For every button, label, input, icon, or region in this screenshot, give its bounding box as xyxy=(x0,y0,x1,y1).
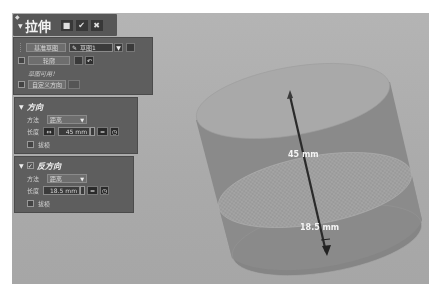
method-select[interactable]: 距离 ▼ xyxy=(47,115,87,124)
lock-button[interactable]: ■ xyxy=(61,20,73,31)
draft-label: 拔模 xyxy=(38,199,50,208)
profile-button[interactable]: 轮廓 xyxy=(28,56,70,65)
drag-handle[interactable] xyxy=(20,43,24,52)
measure-icon[interactable]: ═ xyxy=(87,186,98,195)
reference-sketch-button[interactable]: 基准草图 xyxy=(26,43,66,52)
length-spinner[interactable] xyxy=(90,127,95,136)
length-drag-handle-icon[interactable]: ⇔ xyxy=(43,127,55,136)
custom-direction-button[interactable]: 自定义方向 xyxy=(28,80,66,89)
reverse-method-select[interactable]: 距离 ▼ xyxy=(47,174,87,183)
custom-direction-handle[interactable] xyxy=(18,81,25,88)
reverse-length-input[interactable]: 18.5 mm xyxy=(43,186,80,195)
reverse-profile-icon[interactable]: ↶ xyxy=(85,56,94,65)
formula-icon[interactable]: ◷ xyxy=(110,127,119,136)
draft-label: 拔模 xyxy=(38,140,50,149)
method-label: 方法 xyxy=(27,115,47,124)
sketch-extra-button[interactable] xyxy=(126,43,135,52)
dialog-title: 拉伸 xyxy=(25,16,51,35)
reverse-length-spinner[interactable] xyxy=(80,186,85,195)
collapse-triangle-icon[interactable]: ▼ xyxy=(19,103,24,110)
lock-icon: ■ xyxy=(63,21,71,30)
sketch-status-text: 草图可用！ xyxy=(28,69,58,78)
draft-checkbox[interactable] xyxy=(27,141,34,148)
close-icon: ✖ xyxy=(93,21,100,30)
sketch-dropdown-button[interactable]: ▼ xyxy=(114,43,123,52)
pencil-icon: ✎ xyxy=(72,44,77,51)
profile-select-button[interactable] xyxy=(74,56,83,65)
formula-icon[interactable]: ◷ xyxy=(100,186,109,195)
dimension-label-forward[interactable]: 45 mm xyxy=(288,150,319,159)
method-label: 方法 xyxy=(27,174,47,183)
length-input[interactable]: 45 mm xyxy=(58,127,90,136)
reverse-draft-checkbox[interactable] xyxy=(27,200,34,207)
chevron-down-icon: ▼ xyxy=(80,117,84,123)
ok-button[interactable]: ✔ xyxy=(76,20,88,31)
profile-row-handle[interactable] xyxy=(18,57,25,64)
reverse-direction-panel: ▼ ✓ 反方向 方法 距离 ▼ 长度 18.5 mm ═ ◷ 拔模 xyxy=(14,156,134,213)
sketch-selector[interactable]: ✎ 草图1 xyxy=(69,43,113,52)
length-label: 长度 xyxy=(27,127,43,136)
reverse-section-title: 反方向 xyxy=(37,160,61,171)
collapse-triangle-icon[interactable]: ▼ xyxy=(19,162,24,169)
length-label: 长度 xyxy=(27,186,43,195)
chevron-down-icon: ▼ xyxy=(80,176,84,182)
check-icon: ✔ xyxy=(78,21,85,30)
custom-direction-extra[interactable] xyxy=(68,80,80,89)
collapse-triangle-icon[interactable]: ▼ xyxy=(18,22,23,29)
dialog-titlebar: ◆ ▼ 拉伸 ■ ✔ ✖ xyxy=(13,14,117,36)
cancel-button[interactable]: ✖ xyxy=(91,20,103,31)
direction-section-title: 方向 xyxy=(27,101,43,112)
dimension-label-reverse[interactable]: 18.5 mm xyxy=(300,223,339,232)
direction-panel: ▼ 方向 方法 距离 ▼ 长度 ⇔ 45 mm ═ ◷ 拔模 xyxy=(14,97,138,154)
pin-icon[interactable]: ◆ xyxy=(15,13,20,20)
reverse-direction-checkbox[interactable]: ✓ xyxy=(27,162,34,169)
profile-panel: 基准草图 ✎ 草图1 ▼ 轮廓 ↶ 草图可用！ 自定义方向 xyxy=(13,37,153,95)
measure-icon[interactable]: ═ xyxy=(97,127,108,136)
